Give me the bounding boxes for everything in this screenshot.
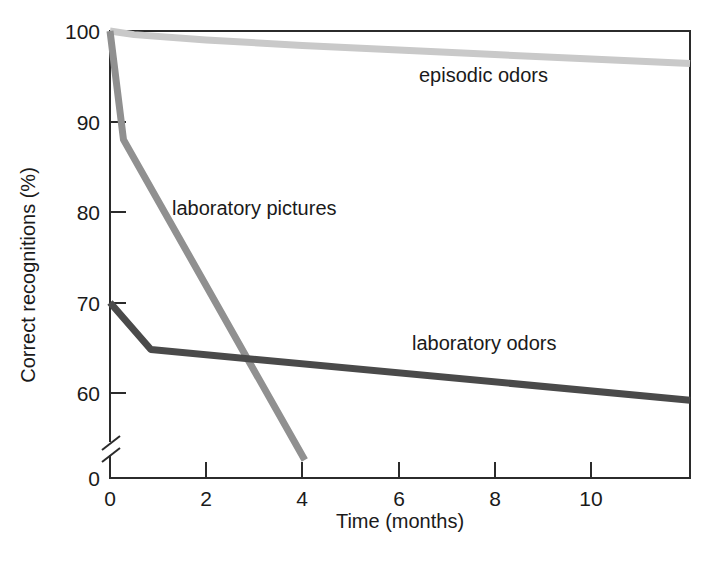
x-axis-tick-labels: 0 2 4 6 8 10 <box>104 487 603 510</box>
y-tick-label-70: 70 <box>77 292 100 315</box>
y-tick-label-60: 60 <box>77 382 100 405</box>
x-tick-label-4: 4 <box>296 487 308 510</box>
x-tick-label-10: 10 <box>579 487 602 510</box>
x-tick-label-2: 2 <box>200 487 212 510</box>
y-axis-tick-labels: 100 90 80 70 60 0 <box>65 20 100 490</box>
chart-figure: 100 90 80 70 60 0 0 2 4 6 8 10 <box>0 0 715 581</box>
y-axis-title: Correct recognitions (%) <box>17 167 39 383</box>
series-line-laboratory-odors <box>110 303 690 401</box>
x-axis-title: Time (months) <box>336 510 464 532</box>
series-labels: episodic odors laboratory pictures labor… <box>172 64 557 354</box>
x-axis-ticks <box>110 462 591 478</box>
series-label-laboratory-pictures: laboratory pictures <box>172 197 337 219</box>
y-tick-label-80: 80 <box>77 201 100 224</box>
series-label-episodic-odors: episodic odors <box>419 64 548 86</box>
x-tick-label-0: 0 <box>104 487 116 510</box>
series-label-laboratory-odors: laboratory odors <box>412 332 557 354</box>
y-tick-label-100: 100 <box>65 20 100 43</box>
y-tick-label-90: 90 <box>77 111 100 134</box>
line-chart-svg: 100 90 80 70 60 0 0 2 4 6 8 10 <box>0 0 715 581</box>
series-line-episodic-odors <box>110 31 690 64</box>
x-tick-label-8: 8 <box>489 487 501 510</box>
x-tick-label-6: 6 <box>393 487 405 510</box>
series-group <box>110 31 690 460</box>
series-line-laboratory-pictures <box>110 31 305 460</box>
y-tick-label-zero: 0 <box>88 467 100 490</box>
